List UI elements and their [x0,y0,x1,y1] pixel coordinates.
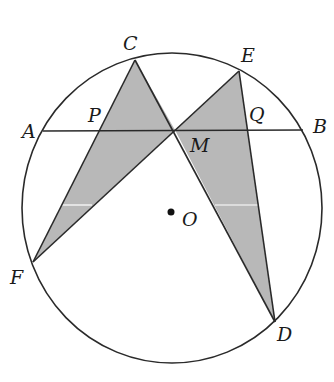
label-p: P [87,104,102,126]
label-o: O [182,208,198,230]
label-f: F [9,266,24,288]
center-point-o [168,209,175,216]
label-c: C [123,32,138,54]
label-a: A [20,120,36,142]
shaded-triangle-cmf [33,60,175,262]
geometry-diagram: C E A P Q B M O F D [0,0,334,382]
label-e: E [240,44,255,66]
label-d: D [276,323,292,345]
label-q: Q [249,103,265,125]
label-b: B [312,115,327,137]
label-m: M [189,134,210,156]
